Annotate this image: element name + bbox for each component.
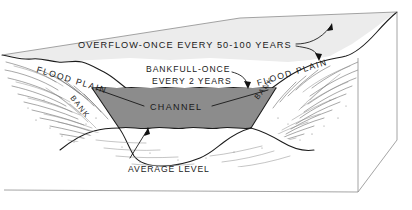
upland-surface — [2, 12, 396, 62]
upland-surface-plane — [2, 12, 396, 62]
label-overflow: OVERFLOW-ONCE EVERY 50-100 YEARS — [78, 40, 292, 50]
label-bankfull-line2: EVERY 2 YEARS — [152, 76, 232, 86]
label-channel: CHANNEL — [150, 102, 202, 112]
block-diagram-figure: OVERFLOW-ONCE EVERY 50-100 YEARS BANKFUL… — [0, 0, 412, 210]
bankfull-leader-group — [232, 72, 251, 89]
label-average-level: AVERAGE LEVEL — [128, 164, 210, 174]
label-bankfull-line1: BANKFULL-ONCE — [146, 64, 230, 74]
diagram-canvas: OVERFLOW-ONCE EVERY 50-100 YEARS BANKFUL… — [0, 0, 412, 210]
